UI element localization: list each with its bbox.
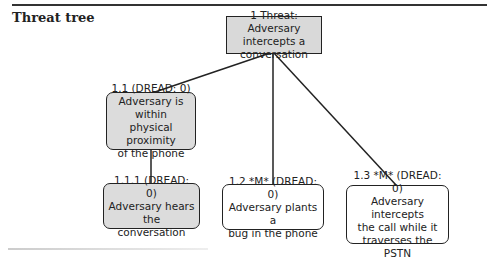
node-root-threat: 1 Threat: Adversary intercepts a convers…: [226, 16, 322, 54]
bottom-rule: [8, 248, 208, 250]
node-line: of the phone: [110, 147, 192, 160]
edge-root-1-3: [273, 52, 396, 185]
node-line: 1.2 *M* (DREAD: 0): [226, 175, 320, 201]
node-line: conversation: [230, 48, 318, 61]
node-line: bug in the phone: [226, 227, 320, 240]
node-line: 1.1.1 (DREAD: 0): [107, 174, 196, 200]
node-line: intercepts a: [230, 35, 318, 48]
node-line: Adversary hears the: [107, 200, 196, 226]
node-line: Adversary intercepts: [350, 195, 445, 221]
node-1-2: 1.2 *M* (DREAD: 0) Adversary plants a bu…: [222, 184, 324, 230]
node-line: Adversary is within: [110, 95, 192, 121]
node-line: Adversary plants a: [226, 201, 320, 227]
node-line: 1.1 (DREAD: 0): [110, 82, 192, 95]
node-1-3: 1.3 *M* (DREAD: 0) Adversary intercepts …: [346, 185, 449, 244]
node-line: physical proximity: [110, 121, 192, 147]
node-line: traverses the PSTN: [350, 234, 445, 260]
node-line: 1 Threat: Adversary: [230, 9, 318, 35]
node-line: conversation: [107, 226, 196, 239]
node-line: 1.3 *M* (DREAD: 0): [350, 169, 445, 195]
node-line: the call while it: [350, 221, 445, 234]
node-1-1: 1.1 (DREAD: 0) Adversary is within physi…: [106, 92, 196, 150]
node-1-1-1: 1.1.1 (DREAD: 0) Adversary hears the con…: [103, 183, 200, 229]
